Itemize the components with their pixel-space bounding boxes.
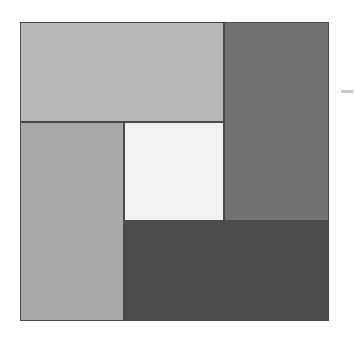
treemap-rect-right[interactable] <box>224 22 329 221</box>
treemap-rect-bottom[interactable] <box>124 221 329 321</box>
treemap-rect-left[interactable] <box>20 122 124 321</box>
treemap-rect-top-left[interactable] <box>20 22 224 122</box>
treemap-rect-center[interactable] <box>124 122 224 221</box>
right-axis-tick-icon <box>341 90 353 93</box>
treemap-figure <box>0 0 355 346</box>
